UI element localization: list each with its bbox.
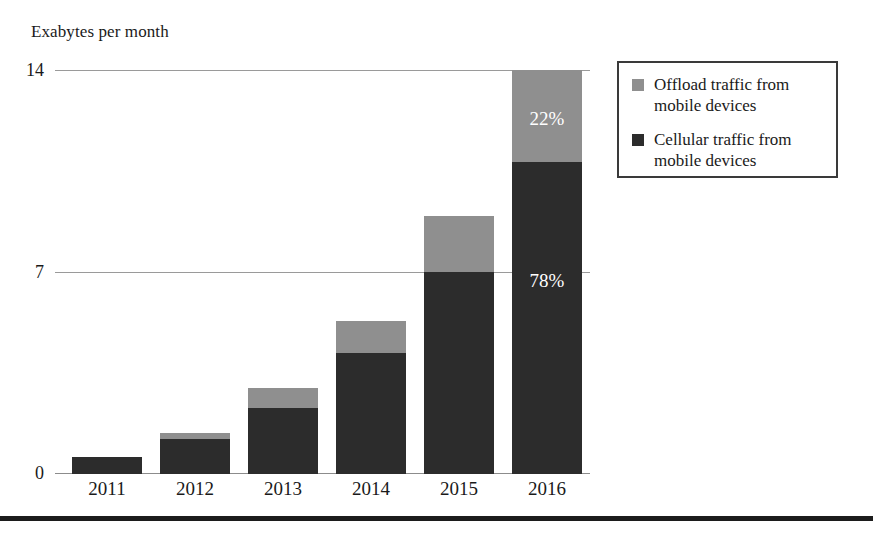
x-tick-label-2013: 2013 bbox=[248, 478, 318, 500]
chart-legend: Offload traffic from mobile devices Cell… bbox=[617, 61, 838, 178]
chart-figure: Exabytes per month 14 7 0 bbox=[0, 0, 873, 537]
bar-segment-offload-2015[interactable] bbox=[424, 216, 494, 272]
x-tick-label-2012: 2012 bbox=[160, 478, 230, 500]
bar-group-2014[interactable] bbox=[336, 321, 406, 474]
bar-segment-offload-2013[interactable] bbox=[248, 388, 318, 408]
x-tick-label-2014: 2014 bbox=[336, 478, 406, 500]
bars-container: 22% 78% bbox=[55, 70, 590, 474]
legend-item-offload[interactable]: Offload traffic from mobile devices bbox=[632, 74, 828, 116]
bar-segment-cellular-2015[interactable] bbox=[424, 272, 494, 474]
plot-area: 14 7 0 bbox=[55, 70, 590, 474]
legend-label-cellular: Cellular traffic from mobile devices bbox=[654, 129, 819, 171]
bar-segment-offload-2016[interactable]: 22% bbox=[512, 70, 582, 162]
bar-group-2016[interactable]: 22% 78% bbox=[512, 70, 582, 474]
bar-segment-cellular-2013[interactable] bbox=[248, 408, 318, 474]
bar-group-2012[interactable] bbox=[160, 433, 230, 474]
y-tick-label-14: 14 bbox=[26, 61, 44, 79]
y-axis-title: Exabytes per month bbox=[31, 22, 169, 42]
bar-label-offload-2016: 22% bbox=[512, 109, 582, 128]
legend-label-offload: Offload traffic from mobile devices bbox=[654, 74, 819, 116]
y-tick-label-7: 7 bbox=[35, 263, 44, 281]
x-tick-label-2016: 2016 bbox=[512, 478, 582, 500]
bar-group-2011[interactable] bbox=[72, 457, 142, 474]
bar-segment-cellular-2016[interactable]: 78% bbox=[512, 162, 582, 474]
legend-item-cellular[interactable]: Cellular traffic from mobile devices bbox=[632, 129, 828, 171]
x-tick-label-2011: 2011 bbox=[72, 478, 142, 500]
bar-group-2015[interactable] bbox=[424, 216, 494, 474]
bottom-rule bbox=[0, 516, 873, 521]
legend-swatch-offload-icon bbox=[632, 79, 644, 91]
bar-segment-cellular-2011[interactable] bbox=[72, 457, 142, 474]
bar-segment-offload-2014[interactable] bbox=[336, 321, 406, 353]
bar-label-cellular-2016: 78% bbox=[512, 271, 582, 290]
bar-segment-cellular-2012[interactable] bbox=[160, 439, 230, 474]
y-tick-label-0: 0 bbox=[35, 464, 44, 482]
legend-swatch-cellular-icon bbox=[632, 134, 644, 146]
bar-group-2013[interactable] bbox=[248, 388, 318, 474]
bar-segment-cellular-2014[interactable] bbox=[336, 353, 406, 474]
x-tick-label-2015: 2015 bbox=[424, 478, 494, 500]
x-axis: 2011 2012 2013 2014 2015 2016 bbox=[55, 478, 590, 508]
